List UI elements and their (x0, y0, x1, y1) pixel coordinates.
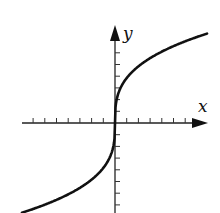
x-axis-label: x (198, 96, 208, 116)
x-axis-ticks (33, 118, 185, 123)
x-axis-arrow-icon (192, 118, 208, 128)
y-axis-arrow-icon (110, 25, 120, 41)
y-axis-label: y (122, 23, 133, 43)
cube-root-graph: x y (0, 0, 220, 213)
